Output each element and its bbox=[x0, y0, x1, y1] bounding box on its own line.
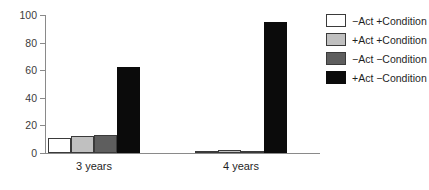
y-tick-20: 20 bbox=[0, 125, 45, 126]
legend-item-label: +Act −Condition bbox=[352, 72, 427, 84]
y-tick-mark bbox=[40, 70, 45, 71]
legend-item-label: +Act +Condition bbox=[352, 34, 427, 46]
y-tick-mark bbox=[40, 43, 45, 44]
legend: −Act +Condition +Act +Condition −Act −Co… bbox=[326, 11, 429, 87]
y-tick-100: 100 bbox=[0, 15, 45, 16]
bar-4years-act-minus-condition-minus bbox=[241, 151, 264, 153]
x-axis-line bbox=[45, 153, 320, 154]
y-tick-mark bbox=[40, 15, 45, 16]
y-tick-mark bbox=[40, 153, 45, 154]
legend-item-act-plus-condition-plus: +Act +Condition bbox=[326, 30, 429, 49]
y-tick-label: 0 bbox=[0, 148, 37, 158]
bar-4years-act-minus-condition-plus bbox=[195, 151, 218, 153]
legend-swatch-icon bbox=[326, 33, 346, 46]
y-axis-line bbox=[45, 15, 46, 154]
bar-3years-act-plus-condition-plus bbox=[71, 136, 94, 153]
legend-item-label: −Act −Condition bbox=[352, 53, 427, 65]
x-axis-group-label-3-years: 3 years bbox=[54, 160, 134, 172]
y-tick-40: 40 bbox=[0, 98, 45, 99]
legend-item-act-plus-condition-minus: +Act −Condition bbox=[326, 68, 429, 87]
y-tick-label: 20 bbox=[0, 120, 37, 130]
y-tick-mark bbox=[40, 98, 45, 99]
legend-swatch-icon bbox=[326, 52, 346, 65]
bar-3years-act-minus-condition-minus bbox=[94, 135, 117, 153]
y-tick-80: 80 bbox=[0, 43, 45, 44]
legend-item-label: −Act +Condition bbox=[352, 15, 427, 27]
bar-3years-act-plus-condition-minus bbox=[117, 67, 140, 153]
y-tick-mark bbox=[40, 125, 45, 126]
y-tick-0: 0 bbox=[0, 153, 45, 154]
legend-item-act-minus-condition-plus: −Act +Condition bbox=[326, 11, 429, 30]
y-tick-label: 80 bbox=[0, 38, 37, 48]
legend-swatch-icon bbox=[326, 71, 346, 84]
bar-4years-act-plus-condition-plus bbox=[218, 150, 241, 153]
bar-4years-act-plus-condition-minus bbox=[264, 22, 287, 153]
x-axis-group-label-4-years: 4 years bbox=[201, 160, 281, 172]
legend-swatch-icon bbox=[326, 14, 346, 27]
y-tick-label: 40 bbox=[0, 93, 37, 103]
bar-chart-figure: 100 80 60 40 20 0 bbox=[0, 0, 429, 190]
y-tick-label: 60 bbox=[0, 65, 37, 75]
legend-item-act-minus-condition-minus: −Act −Condition bbox=[326, 49, 429, 68]
bar-3years-act-minus-condition-plus bbox=[48, 138, 71, 153]
y-tick-60: 60 bbox=[0, 70, 45, 71]
y-tick-label: 100 bbox=[0, 10, 37, 20]
